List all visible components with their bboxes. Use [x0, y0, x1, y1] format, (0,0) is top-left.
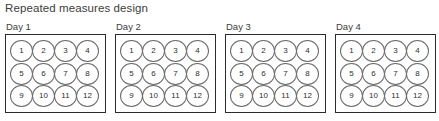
subject-circle: 3 [54, 40, 77, 62]
subject-circle: 7 [54, 63, 77, 85]
subject-circle: 8 [186, 63, 209, 85]
subject-grid-row: 5 6 7 8 [340, 63, 431, 85]
subject-circle: 7 [164, 63, 187, 85]
day-panel-3-box: 1 2 3 4 5 6 7 8 9 10 11 [225, 34, 326, 113]
subject-circle: 11 [164, 85, 187, 107]
subject-grid-row: 1 2 3 4 [10, 40, 101, 62]
subject-circle: 5 [120, 63, 143, 85]
day-panel-4-label: Day 4 [335, 21, 436, 32]
subject-grid: 1 2 3 4 5 6 7 8 9 10 11 [10, 40, 101, 107]
day-panel-1: Day 1 1 2 3 4 5 6 7 8 [5, 21, 106, 113]
subject-circle: 9 [120, 85, 143, 107]
subject-circle: 4 [406, 40, 429, 62]
subject-circle: 11 [54, 85, 77, 107]
subject-circle: 4 [186, 40, 209, 62]
subject-circle: 10 [252, 85, 275, 107]
subject-circle: 5 [340, 63, 363, 85]
repeated-measures-design-figure: Repeated measures design Day 1 1 2 3 4 5… [0, 0, 439, 121]
day-panel-2-box: 1 2 3 4 5 6 7 8 9 10 11 [115, 34, 216, 113]
subject-circle: 8 [406, 63, 429, 85]
subject-circle: 3 [274, 40, 297, 62]
subject-circle: 6 [32, 63, 55, 85]
subject-grid-row: 9 10 11 12 [10, 85, 101, 107]
subject-grid-row: 1 2 3 4 [340, 40, 431, 62]
subject-grid-row: 1 2 3 4 [120, 40, 211, 62]
subject-circle: 12 [186, 85, 209, 107]
subject-grid-row: 9 10 11 12 [230, 85, 321, 107]
subject-circle: 10 [32, 85, 55, 107]
subject-circle: 1 [120, 40, 143, 62]
subject-grid-row: 5 6 7 8 [10, 63, 101, 85]
subject-grid-row: 9 10 11 12 [340, 85, 431, 107]
subject-circle: 2 [142, 40, 165, 62]
subject-circle: 11 [384, 85, 407, 107]
subject-circle: 8 [76, 63, 99, 85]
subject-circle: 3 [384, 40, 407, 62]
subject-grid-row: 5 6 7 8 [230, 63, 321, 85]
figure-title: Repeated measures design [5, 1, 148, 15]
subject-circle: 12 [296, 85, 319, 107]
day-panel-2: Day 2 1 2 3 4 5 6 7 8 [115, 21, 216, 113]
subject-circle: 4 [296, 40, 319, 62]
subject-circle: 2 [362, 40, 385, 62]
subject-grid-row: 5 6 7 8 [120, 63, 211, 85]
subject-circle: 10 [362, 85, 385, 107]
subject-circle: 9 [10, 85, 33, 107]
subject-circle: 7 [274, 63, 297, 85]
subject-grid: 1 2 3 4 5 6 7 8 9 10 11 [120, 40, 211, 107]
subject-circle: 5 [230, 63, 253, 85]
subject-circle: 6 [252, 63, 275, 85]
day-panel-row: Day 1 1 2 3 4 5 6 7 8 [0, 21, 439, 117]
subject-grid-row: 9 10 11 12 [120, 85, 211, 107]
subject-circle: 5 [10, 63, 33, 85]
subject-circle: 4 [76, 40, 99, 62]
subject-circle: 6 [362, 63, 385, 85]
subject-circle: 8 [296, 63, 319, 85]
subject-grid-row: 1 2 3 4 [230, 40, 321, 62]
day-panel-2-label: Day 2 [115, 21, 216, 32]
day-panel-4-box: 1 2 3 4 5 6 7 8 9 10 11 [335, 34, 436, 113]
subject-circle: 1 [230, 40, 253, 62]
subject-circle: 1 [10, 40, 33, 62]
subject-circle: 1 [340, 40, 363, 62]
subject-circle: 12 [76, 85, 99, 107]
subject-circle: 2 [252, 40, 275, 62]
day-panel-1-box: 1 2 3 4 5 6 7 8 9 10 11 [5, 34, 106, 113]
subject-grid: 1 2 3 4 5 6 7 8 9 10 11 [230, 40, 321, 107]
subject-circle: 9 [340, 85, 363, 107]
subject-circle: 12 [406, 85, 429, 107]
day-panel-3: Day 3 1 2 3 4 5 6 7 8 [225, 21, 326, 113]
subject-circle: 6 [142, 63, 165, 85]
subject-circle: 10 [142, 85, 165, 107]
subject-circle: 9 [230, 85, 253, 107]
subject-circle: 3 [164, 40, 187, 62]
day-panel-3-label: Day 3 [225, 21, 326, 32]
day-panel-1-label: Day 1 [5, 21, 106, 32]
subject-circle: 2 [32, 40, 55, 62]
day-panel-4: Day 4 1 2 3 4 5 6 7 8 [335, 21, 436, 113]
subject-grid: 1 2 3 4 5 6 7 8 9 10 11 [340, 40, 431, 107]
subject-circle: 11 [274, 85, 297, 107]
subject-circle: 7 [384, 63, 407, 85]
